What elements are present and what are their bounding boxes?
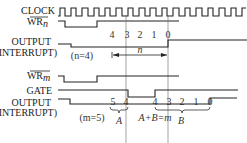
wr-n-label: WR n [27, 16, 48, 29]
wr-m-label: WR m [27, 70, 50, 83]
wr-m-waveform [58, 76, 179, 82]
output-n-label-line1: OUTPUT [12, 36, 51, 47]
svg-text:4: 4 [110, 29, 115, 40]
output-m-waveform [58, 98, 237, 104]
counts-m: 5 4 4 3 2 1 0 [111, 96, 213, 107]
svg-text:3: 3 [167, 96, 172, 107]
svg-text:n: n [43, 18, 48, 29]
svg-text:3: 3 [125, 29, 130, 40]
svg-text:2: 2 [180, 96, 185, 107]
m-note: (m=5) [79, 112, 104, 124]
n-note: (n=4) [71, 50, 93, 62]
svg-text:4: 4 [153, 96, 158, 107]
svg-text:0: 0 [166, 29, 171, 40]
output-n-label-line2: (INTERRUPT) [0, 47, 57, 59]
counts-n: 4 3 2 1 0 [110, 29, 171, 40]
sum-label: A+B=m [138, 112, 172, 123]
brace-b-label: B [178, 115, 184, 126]
output-n-waveform [58, 40, 247, 47]
n-span-label: n [138, 44, 143, 55]
brace-a-label: A [115, 115, 123, 126]
svg-text:4: 4 [124, 96, 129, 107]
svg-text:WR: WR [27, 70, 43, 81]
wr-n-waveform [58, 21, 179, 27]
svg-text:1: 1 [152, 29, 157, 40]
svg-text:5: 5 [111, 96, 116, 107]
svg-text:1: 1 [194, 96, 199, 107]
svg-text:WR: WR [27, 16, 43, 27]
svg-text:2: 2 [138, 29, 143, 40]
brace-a [110, 107, 128, 113]
clock-label: CLOCK [21, 5, 56, 16]
clock-waveform [58, 8, 246, 16]
output-m-label-line2: (INTERRUPT) [0, 107, 57, 119]
svg-text:m: m [43, 72, 50, 83]
timing-diagram: CLOCK WR n OUTPUT (INTERRUPT) WR m GATE … [0, 0, 247, 143]
gate-label: GATE [26, 85, 52, 96]
